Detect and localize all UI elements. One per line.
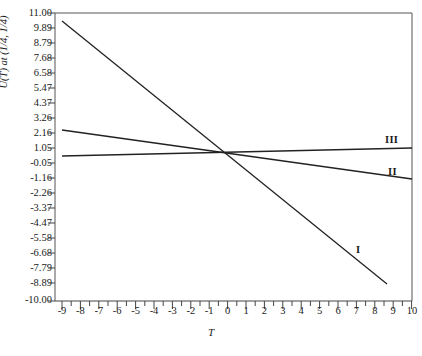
series-label-I: I	[356, 244, 360, 255]
x-tick-label: -1	[199, 305, 219, 316]
series-label-II: II	[388, 166, 397, 177]
x-tick-label: 7	[346, 305, 366, 316]
x-tick-label: -8	[70, 305, 90, 316]
x-tick-label: 3	[273, 305, 293, 316]
x-axis-label: T	[0, 326, 422, 338]
x-tick-label: 10	[402, 305, 422, 316]
x-tick-label: 1	[236, 305, 256, 316]
plot-frame	[55, 13, 412, 301]
y-axis-ticks	[48, 13, 55, 301]
x-tick-label: -3	[162, 305, 182, 316]
x-tick-label: -6	[107, 305, 127, 316]
plot-canvas	[0, 0, 422, 356]
series-label-III: III	[385, 134, 398, 145]
x-tick-label: -7	[89, 305, 109, 316]
cropped-caption-text	[0, 344, 422, 354]
x-tick-label: -5	[126, 305, 146, 316]
x-tick-label: 6	[328, 305, 348, 316]
x-tick-label: 9	[383, 305, 403, 316]
x-tick-label: -9	[52, 305, 72, 316]
x-tick-label: 4	[291, 305, 311, 316]
x-tick-label: -2	[181, 305, 201, 316]
x-tick-label: 5	[310, 305, 330, 316]
x-tick-label: 8	[365, 305, 385, 316]
x-tick-label: 0	[218, 305, 238, 316]
x-tick-label: 2	[254, 305, 274, 316]
chart-figure: U(T) at (1/4, 1/4) 11.00 9.89 8.79 7.68 …	[0, 0, 422, 356]
x-tick-label: -4	[144, 305, 164, 316]
